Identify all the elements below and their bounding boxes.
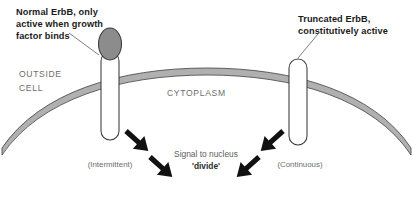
left-callout-line2: active when growth (16, 19, 103, 29)
diagram-canvas: Normal ErbB, only active when growth fac… (0, 0, 413, 201)
right-mode-label: (Continuous) (277, 160, 323, 169)
signal-arrow-icon-left-upper (120, 125, 154, 158)
signal-arrow-icon-right-upper (255, 125, 289, 158)
signal-label-line2: 'divide' (192, 161, 220, 171)
outside-cell-label-line1: OUTSIDE (19, 69, 62, 79)
left-callout-line3: factor binds (16, 31, 70, 41)
left-callout-leader-line (69, 33, 99, 55)
normal-erbb-receptor-icon (99, 28, 122, 140)
left-callout-line1: Normal ErbB, only (16, 7, 99, 17)
erbb-signaling-diagram: Normal ErbB, only active when growth fac… (0, 0, 413, 201)
outside-cell-label-line2: CELL (19, 83, 43, 93)
right-callout-line1: Truncated ErbB, (298, 14, 370, 24)
right-callout-leader-line (298, 34, 318, 58)
right-callout-line2: constitutively active (298, 26, 388, 36)
signal-arrow-icon-left-lower (144, 151, 178, 184)
left-mode-label: (Intermittent) (88, 160, 133, 169)
cytoplasm-label: CYTOPLASM (167, 88, 226, 98)
cell-membrane-icon (2, 68, 411, 155)
signal-label-line1: Signal to nucleus (174, 149, 238, 159)
truncated-erbb-receptor-icon (289, 59, 307, 145)
